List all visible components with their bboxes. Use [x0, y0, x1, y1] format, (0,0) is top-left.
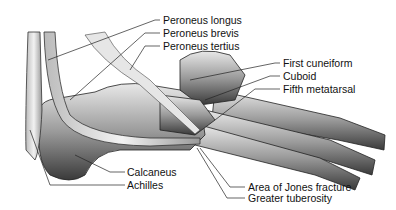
label-peroneus-longus: Peroneus longus — [163, 14, 242, 26]
label-greater-tuberosity: Greater tuberosity — [248, 192, 332, 204]
label-achilles: Achilles — [127, 179, 163, 191]
metatarsals — [195, 90, 385, 190]
label-peroneus-tertius: Peroneus tertius — [163, 40, 239, 52]
label-peroneus-brevis: Peroneus brevis — [163, 27, 239, 39]
label-cuboid: Cuboid — [283, 70, 316, 82]
label-first-cuneiform: First cuneiform — [283, 57, 352, 69]
anatomy-diagram: Peroneus longus Peroneus brevis Peroneus… — [0, 0, 396, 210]
label-fifth-metatarsal: Fifth metatarsal — [283, 83, 355, 95]
label-calcaneus: Calcaneus — [127, 166, 177, 178]
